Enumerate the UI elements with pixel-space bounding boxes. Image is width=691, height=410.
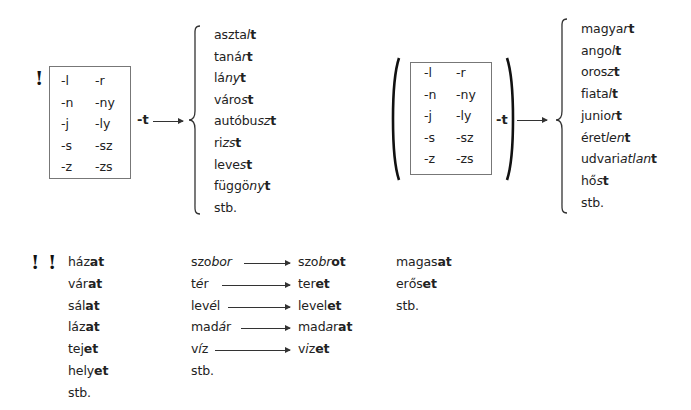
word-ending: t bbox=[612, 86, 618, 101]
word-ending: at bbox=[85, 298, 99, 313]
word-stem: erős bbox=[396, 276, 423, 291]
suffix-item: -l bbox=[61, 73, 69, 89]
word-item: juniort bbox=[581, 108, 622, 124]
word-item: rizst bbox=[214, 135, 241, 151]
word-ending: t bbox=[264, 178, 270, 193]
word-item: levest bbox=[214, 157, 252, 173]
word-item: stb. bbox=[581, 195, 604, 211]
word-ending: t bbox=[651, 151, 657, 166]
word-item: lázat bbox=[68, 319, 100, 335]
word-stem: leve bbox=[214, 157, 240, 172]
word-stem: r bbox=[226, 319, 231, 334]
word-item: függönyt bbox=[214, 178, 270, 194]
word-changed-vowel: br bbox=[318, 254, 331, 269]
word-stem: stb. bbox=[68, 385, 91, 400]
word-ending: at bbox=[85, 319, 99, 334]
word-ending: t bbox=[247, 49, 253, 64]
suffix-box: -l-n-j-s-z-r-ny-ly-sz-zs bbox=[410, 62, 492, 175]
word-stem: l bbox=[217, 298, 220, 313]
left-paren-icon bbox=[389, 57, 401, 181]
word-item: éretlent bbox=[581, 130, 630, 146]
word-stem-final: ny bbox=[225, 70, 240, 85]
word-stem: éret bbox=[581, 130, 606, 145]
accusative-word: levelet bbox=[298, 298, 342, 314]
word-item: várat bbox=[68, 276, 102, 292]
suffix-item: -l bbox=[424, 65, 432, 81]
word-stem: stb. bbox=[214, 200, 237, 215]
base-word: madár bbox=[191, 319, 231, 335]
word-stem: ango bbox=[581, 43, 612, 58]
word-stem-final: atlan bbox=[620, 151, 651, 166]
suffix-item: -s bbox=[424, 130, 435, 146]
suffix-item: -sz bbox=[95, 138, 113, 154]
suffix-item: -ly bbox=[95, 116, 110, 132]
double-exclamation-marker: ! ! bbox=[31, 252, 57, 272]
word-stem: udvari bbox=[581, 151, 620, 166]
suffix-item: -sz bbox=[456, 130, 474, 146]
word-item: magyart bbox=[581, 21, 634, 37]
suffix-item: -z bbox=[424, 151, 435, 167]
word-ending: t bbox=[628, 21, 634, 36]
word-stem: stb. bbox=[396, 298, 419, 313]
word-ending: et bbox=[315, 276, 329, 291]
suffix-item: -ny bbox=[456, 87, 476, 103]
word-ending: t bbox=[625, 130, 631, 145]
word-stem: level bbox=[298, 298, 327, 313]
word-stem: r bbox=[203, 276, 208, 291]
arrow-icon bbox=[228, 307, 290, 308]
suffix-item: -j bbox=[424, 108, 432, 124]
suffix-item: -r bbox=[95, 73, 105, 89]
suffix-item: -zs bbox=[95, 159, 113, 175]
exclamation-marker: ! bbox=[35, 68, 43, 88]
word-stem: tej bbox=[68, 341, 84, 356]
arrow-icon bbox=[153, 121, 183, 122]
word-item: magasat bbox=[396, 254, 452, 270]
word-item: erőset bbox=[396, 276, 437, 292]
accusative-word: vizet bbox=[298, 341, 329, 357]
word-stem: függö bbox=[214, 178, 249, 193]
word-stem-final: ny bbox=[249, 178, 264, 193]
word-stem: aszta bbox=[214, 27, 247, 42]
word-stem: oros bbox=[581, 64, 607, 79]
arrow-icon bbox=[241, 328, 290, 329]
word-changing-vowel: á bbox=[218, 319, 226, 334]
word-ending: t bbox=[616, 108, 622, 123]
word-item: asztalt bbox=[214, 27, 256, 43]
base-word: szobor bbox=[191, 254, 232, 270]
word-stem: sál bbox=[68, 298, 85, 313]
arrow-icon bbox=[244, 263, 290, 264]
word-stem: taná bbox=[214, 49, 242, 64]
word-ending: at bbox=[437, 254, 451, 269]
word-changing-vowel: bor bbox=[211, 254, 231, 269]
word-stem: hely bbox=[68, 363, 94, 378]
word-stem-final: len bbox=[606, 130, 625, 145]
word-item: helyet bbox=[68, 363, 108, 379]
suffix-item: -ly bbox=[456, 108, 471, 124]
word-stem: hő bbox=[581, 173, 596, 188]
word-item: angolt bbox=[581, 43, 621, 59]
word-ending: t bbox=[270, 113, 276, 128]
suffix-item: -j bbox=[61, 116, 69, 132]
word-item: stb. bbox=[68, 385, 91, 401]
word-changing-vowel: é bbox=[209, 298, 217, 313]
word-ending: et bbox=[315, 341, 329, 356]
word-stem-final: zs bbox=[222, 135, 235, 150]
word-item: stb. bbox=[396, 298, 419, 314]
word-ending: at bbox=[90, 254, 104, 269]
word-ending: t bbox=[614, 64, 620, 79]
ending-label: -t bbox=[137, 112, 149, 128]
curly-brace-icon bbox=[555, 18, 569, 214]
word-stem: ház bbox=[68, 254, 90, 269]
word-stem-final: sz bbox=[257, 113, 270, 128]
word-ending: et bbox=[327, 298, 341, 313]
word-ending: t bbox=[248, 92, 254, 107]
suffix-item: -n bbox=[61, 95, 73, 111]
suffix-item: -zs bbox=[456, 151, 474, 167]
word-stem: stb. bbox=[581, 195, 604, 210]
word-stem: szo bbox=[191, 254, 211, 269]
word-ending: t bbox=[235, 135, 241, 150]
accusative-word: teret bbox=[298, 276, 330, 292]
accusative-word: madarat bbox=[298, 319, 352, 335]
word-stem: láz bbox=[68, 319, 85, 334]
word-ending: t bbox=[240, 70, 246, 85]
